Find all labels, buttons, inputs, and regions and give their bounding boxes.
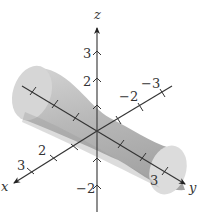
hyperboloid-figure: 2 3 x −2 −3 3 y 3 2 −2 z (0, 0, 206, 212)
y-axis-label: y (188, 180, 197, 195)
z-tick-label-neg2: −2 (76, 181, 95, 196)
z-tick-label-3: 3 (83, 46, 91, 61)
x-tick-label-2: 2 (38, 143, 46, 158)
y-tick-label-3: 3 (150, 173, 158, 188)
y-tick-label-neg2: −2 (119, 89, 138, 104)
x-tick-label-3: 3 (17, 158, 25, 173)
x-axis-label: x (1, 179, 9, 194)
y-tick-label-neg3: −3 (141, 76, 160, 91)
z-tick-label-2: 2 (83, 74, 91, 89)
z-axis-label: z (93, 7, 101, 22)
